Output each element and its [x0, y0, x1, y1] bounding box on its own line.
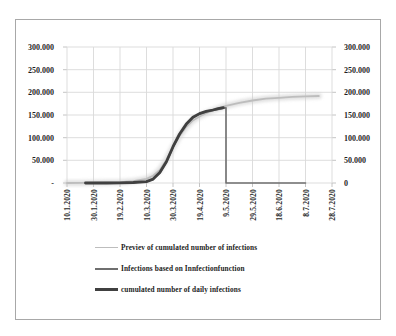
x-axis-label-group: 9.5.2020	[222, 189, 231, 217]
legend-item-infectionfunction: Infections based on Innfectionfunction	[95, 258, 257, 279]
y-axis-right-label: 150.000	[344, 111, 370, 120]
x-axis-label-group: 29.5.2020	[249, 189, 258, 221]
y-axis-left-label: 100.000	[28, 134, 54, 143]
x-axis-label: 28.7.2020	[328, 189, 337, 221]
y-axis-right-label: 0	[344, 179, 348, 188]
x-axis-label-group: 19.4.2020	[196, 189, 205, 221]
x-axis-label: 9.5.2020	[222, 189, 231, 217]
legend-label-daily-cumulated: cumulated number of daily infections	[121, 285, 241, 294]
x-axis-label: 18.6.2020	[275, 189, 284, 221]
legend-label-infectionfunction: Infections based on Innfectionfunction	[121, 264, 245, 273]
y-axis-left-label: 50.000	[32, 156, 54, 165]
series-layer	[67, 96, 319, 183]
y-axis-left-label: -	[51, 179, 54, 188]
legend-item-preview: Previev of cumulated number of infection…	[95, 237, 257, 258]
y-axis-right-label: 250.000	[344, 66, 370, 75]
legend-line-sample-preview	[95, 247, 118, 248]
x-axis-label: 30.1.2020	[90, 189, 99, 221]
legend-line-sample-daily-cumulated	[95, 288, 118, 291]
x-axis-label-group: 28.7.2020	[328, 189, 337, 221]
y-axis-left-label: 150.000	[28, 111, 54, 120]
y-axis-right-label: 50.000	[344, 156, 366, 165]
legend-label-preview: Previev of cumulated number of infection…	[121, 243, 257, 252]
x-axis-label-group: 18.6.2020	[275, 189, 284, 221]
legend-item-daily-cumulated: cumulated number of daily infections	[95, 279, 257, 300]
x-axis-label: 10.1.2020	[63, 189, 72, 221]
x-axis-label-group: 19.2.2020	[116, 189, 125, 221]
y-axis-right-label: 100.000	[344, 134, 370, 143]
y-axis-right-label: 300.000	[344, 43, 370, 52]
x-axis-label: 8.7.2020	[302, 189, 311, 217]
y-axis-left-label: 200.000	[28, 88, 54, 97]
chart-legend: Previev of cumulated number of infection…	[95, 237, 257, 300]
x-axis-label-group: 10.1.2020	[63, 189, 72, 221]
x-axis-label: 19.2.2020	[116, 189, 125, 221]
x-axis-label-group: 30.3.2020	[169, 189, 178, 221]
x-axis-label: 10.3.2020	[143, 189, 152, 221]
series-line-0	[67, 96, 319, 183]
x-axis-label-group: 10.3.2020	[143, 189, 152, 221]
x-axis-label: 30.3.2020	[169, 189, 178, 221]
y-axis-right-label: 200.000	[344, 88, 370, 97]
x-axis-label-group: 30.1.2020	[90, 189, 99, 221]
x-axis-label: 19.4.2020	[196, 189, 205, 221]
y-axis-left-label: 300.000	[28, 43, 54, 52]
x-axis-label: 29.5.2020	[249, 189, 258, 221]
series-glow-0	[67, 96, 319, 183]
x-axis-label-group: 8.7.2020	[302, 189, 311, 217]
y-axis-left-label: 250.000	[28, 66, 54, 75]
legend-line-sample-infectionfunction	[95, 268, 118, 270]
